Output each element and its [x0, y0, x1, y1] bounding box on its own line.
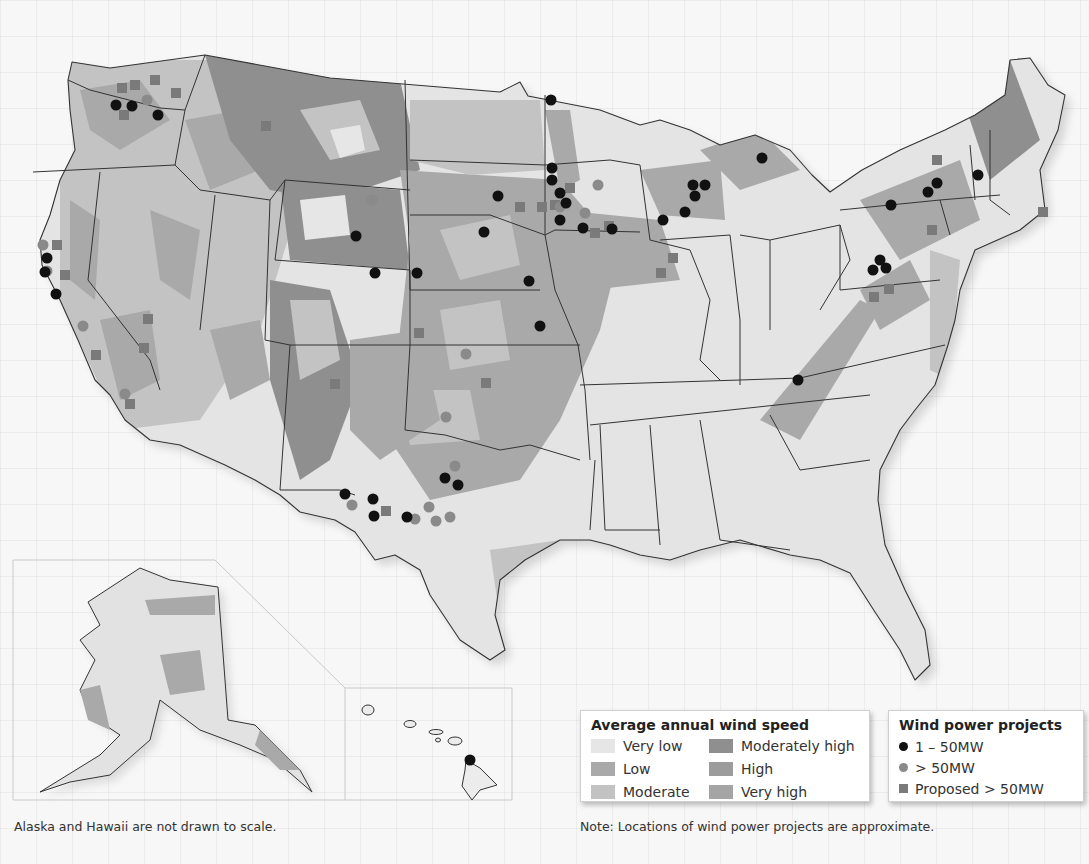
legend-item-low: Low: [591, 759, 709, 779]
legend-item-moderate: Moderate: [591, 782, 709, 802]
legend-label: Proposed > 50MW: [915, 781, 1044, 797]
large-project-marker: [593, 180, 604, 191]
small-project-marker: [465, 755, 476, 766]
proposed-project-marker: [565, 183, 575, 193]
small-project-marker: [127, 101, 138, 112]
legend-item-moderately-high: Moderately high: [709, 736, 869, 756]
proposed-project-marker: [117, 83, 127, 93]
proposed-project-marker: [932, 155, 942, 165]
projects-legend-title: Wind power projects: [899, 717, 1073, 733]
small-project-marker: [923, 187, 934, 198]
proposed-project-marker: [1038, 207, 1048, 217]
proposed-project-marker: [52, 240, 62, 250]
legend-item-very-high: Very high: [709, 782, 869, 802]
legend-label: Low: [623, 761, 651, 777]
small-project-marker: [368, 494, 379, 505]
legend-item-high: High: [709, 759, 869, 779]
proposed-project-marker: [330, 379, 340, 389]
legend-item-very-low: Very low: [591, 736, 709, 756]
large-project-marker: [38, 240, 49, 251]
large-project-marker: [445, 512, 456, 523]
small-project-marker: [40, 267, 51, 278]
proposed-project-marker: [119, 110, 129, 120]
swatch-moderately-high: [709, 739, 733, 753]
small-project-marker: [607, 224, 618, 235]
small-project-marker: [351, 231, 362, 242]
small-project-marker: [479, 227, 490, 238]
small-project-marker: [524, 276, 535, 287]
small-project-marker: [658, 215, 669, 226]
proposed-project-marker: [125, 399, 135, 409]
small-project-marker: [547, 163, 558, 174]
large-project-marker: [580, 208, 591, 219]
large-project-marker: [431, 516, 442, 527]
swatch-moderate: [591, 785, 615, 799]
small-project-marker: [555, 188, 566, 199]
wind-projects-legend: Wind power projects 1 – 50MW > 50MW Prop…: [888, 710, 1084, 802]
legend-label: Moderate: [623, 784, 690, 800]
swatch-high: [709, 762, 733, 776]
proposed-project-marker: [91, 350, 101, 360]
swatch-very-low: [591, 739, 615, 753]
small-project-marker: [370, 268, 381, 279]
grey-dot-icon: [899, 763, 908, 772]
proposed-project-marker: [481, 378, 491, 388]
legend-label: 1 – 50MW: [915, 739, 984, 755]
large-project-marker: [441, 412, 452, 423]
swatch-low: [591, 762, 615, 776]
inset-scale-note: Alaska and Hawaii are not drawn to scale…: [14, 819, 276, 834]
large-project-marker: [367, 195, 378, 206]
grey-square-icon: [899, 784, 908, 793]
proposed-project-marker: [414, 328, 424, 338]
proposed-project-marker: [171, 88, 181, 98]
proposed-project-marker: [537, 202, 547, 212]
small-project-marker: [932, 178, 943, 189]
large-project-marker: [78, 321, 89, 332]
small-project-marker: [402, 512, 413, 523]
large-project-marker: [347, 500, 358, 511]
small-project-marker: [690, 191, 701, 202]
small-project-marker: [547, 175, 558, 186]
large-project-marker: [450, 461, 461, 472]
wind-speed-legend: Average annual wind speed Very low Moder…: [580, 710, 870, 802]
small-project-marker: [973, 170, 984, 181]
proposed-project-marker: [381, 506, 391, 516]
small-project-marker: [153, 110, 164, 121]
proposed-project-marker: [60, 270, 70, 280]
legend-item-proposed-project: Proposed > 50MW: [899, 778, 1073, 799]
small-project-marker: [42, 253, 53, 264]
proposed-project-marker: [261, 121, 271, 131]
proposed-project-marker: [130, 80, 140, 90]
small-project-marker: [535, 321, 546, 332]
swatch-very-high: [709, 785, 733, 799]
small-project-marker: [561, 198, 572, 209]
small-project-marker: [546, 95, 557, 106]
small-project-marker: [412, 268, 423, 279]
proposed-project-marker: [927, 225, 937, 235]
small-project-marker: [111, 100, 122, 111]
small-project-marker: [881, 263, 892, 274]
proposed-project-marker: [668, 253, 678, 263]
legend-label: High: [741, 761, 773, 777]
large-project-marker: [142, 95, 153, 106]
small-project-marker: [688, 180, 699, 191]
small-project-marker: [868, 265, 879, 276]
proposed-project-marker: [869, 292, 879, 302]
alaska-inset: [13, 560, 345, 800]
small-project-marker: [453, 480, 464, 491]
small-project-marker: [555, 215, 566, 226]
proposed-project-marker: [139, 343, 149, 353]
small-project-marker: [340, 489, 351, 500]
legend-label: Moderately high: [741, 738, 855, 754]
small-project-marker: [680, 207, 691, 218]
small-project-marker: [369, 511, 380, 522]
locations-approximate-note: Note: Locations of wind power projects a…: [580, 819, 934, 834]
small-project-marker: [886, 200, 897, 211]
large-project-marker: [120, 389, 131, 400]
legend-item-large-project: > 50MW: [899, 757, 1073, 778]
small-project-marker: [578, 223, 589, 234]
small-project-marker: [793, 375, 804, 386]
large-project-marker: [461, 349, 472, 360]
proposed-project-marker: [884, 284, 894, 294]
hawaii-inset: [345, 688, 512, 800]
